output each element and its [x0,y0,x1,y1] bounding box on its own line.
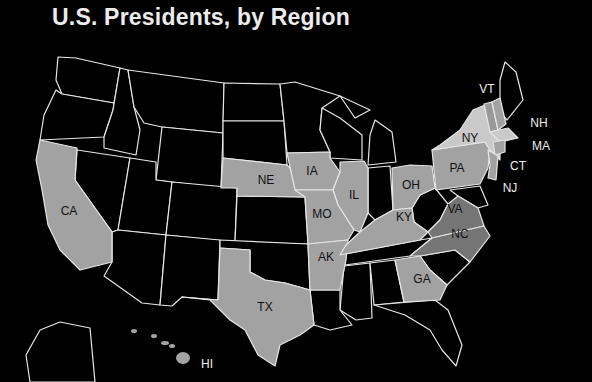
label-AK: AK [318,250,334,264]
us-map: CA NE IA IL MO AK TX OH KY PA NY VA NC G… [0,0,592,382]
label-MO: MO [312,207,331,221]
label-NE: NE [258,173,275,187]
label-MA: MA [532,139,550,153]
state-NJ [488,150,498,180]
label-VA: VA [447,202,462,216]
label-OH: OH [402,178,420,192]
label-GA: GA [413,272,430,286]
label-NH: NH [530,116,547,130]
label-NJ: NJ [503,181,518,195]
label-IL: IL [349,188,359,202]
label-IA: IA [306,164,317,178]
label-NC: NC [451,227,469,241]
label-KY: KY [396,210,412,224]
state-HI [131,329,190,364]
label-VT: VT [479,82,495,96]
label-NY: NY [462,131,479,145]
state-CT [493,140,505,155]
label-PA: PA [449,161,464,175]
label-TX: TX [257,300,272,314]
state-AK-arkansas [308,240,348,290]
label-HI: HI [201,357,213,371]
label-CA: CA [61,204,78,218]
label-CT: CT [510,159,527,173]
